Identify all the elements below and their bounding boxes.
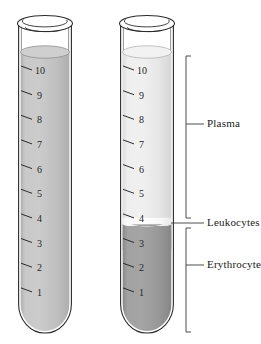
liquid-surface-ellipse bbox=[21, 46, 70, 58]
grad-1: 1 bbox=[37, 287, 42, 298]
grad-5: 5 bbox=[139, 188, 144, 199]
tube-whole-blood: 10 9 8 7 6 5 4 3 2 1 bbox=[18, 16, 73, 334]
layer-plasma bbox=[123, 52, 172, 218]
plasma-bracket bbox=[186, 56, 191, 218]
liquid-surface-ellipse bbox=[123, 46, 172, 58]
grad-6: 6 bbox=[37, 164, 42, 175]
tube-rim-outer bbox=[18, 16, 73, 32]
tube-rim-outer bbox=[120, 16, 175, 32]
grad-5: 5 bbox=[37, 188, 42, 199]
plasma-label: Plasma bbox=[207, 117, 240, 129]
layer-leukocytes bbox=[123, 218, 172, 225]
grad-10: 10 bbox=[35, 65, 45, 76]
leukocytes-label: Leukocytes bbox=[207, 216, 260, 228]
grad-7: 7 bbox=[37, 139, 42, 150]
grad-2: 2 bbox=[37, 262, 42, 273]
erythrocytes-label: Erythrocytes bbox=[207, 258, 261, 270]
grad-4: 4 bbox=[139, 213, 144, 224]
grad-7: 7 bbox=[139, 139, 144, 150]
grad-9: 9 bbox=[139, 90, 144, 101]
grad-3: 3 bbox=[139, 238, 144, 249]
grad-8: 8 bbox=[139, 114, 144, 125]
blood-tubes-diagram: 10 9 8 7 6 5 4 3 2 1 bbox=[0, 0, 261, 344]
grad-3: 3 bbox=[37, 238, 42, 249]
grad-4: 4 bbox=[37, 213, 42, 224]
grad-8: 8 bbox=[37, 114, 42, 125]
tube-contents bbox=[123, 52, 172, 334]
grad-2: 2 bbox=[139, 262, 144, 273]
grad-10: 10 bbox=[137, 65, 147, 76]
figure-canvas: 10 9 8 7 6 5 4 3 2 1 bbox=[0, 0, 261, 344]
erythrocytes-bracket bbox=[186, 228, 191, 332]
grad-6: 6 bbox=[139, 164, 144, 175]
tube-centrifuged: 10 9 8 7 6 5 4 3 2 1 bbox=[120, 16, 175, 335]
grad-1: 1 bbox=[139, 287, 144, 298]
grad-9: 9 bbox=[37, 90, 42, 101]
annotation-brackets bbox=[171, 56, 204, 332]
